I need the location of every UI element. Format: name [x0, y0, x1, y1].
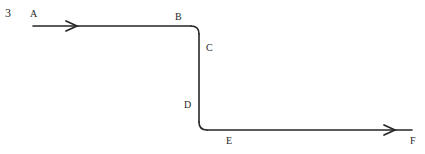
lower-elbow-corner [199, 122, 207, 130]
upper-elbow-corner [191, 26, 199, 34]
point-label-c: C [206, 43, 213, 53]
figure-number: 3 [5, 7, 11, 19]
point-label-b: B [175, 12, 182, 22]
point-label-f: F [410, 136, 416, 146]
point-label-e: E [226, 136, 232, 146]
flow-path-diagram [0, 0, 425, 154]
point-label-a: A [30, 9, 37, 19]
point-label-d: D [184, 100, 191, 110]
figure-container: 3 A B C D E F [0, 0, 425, 154]
